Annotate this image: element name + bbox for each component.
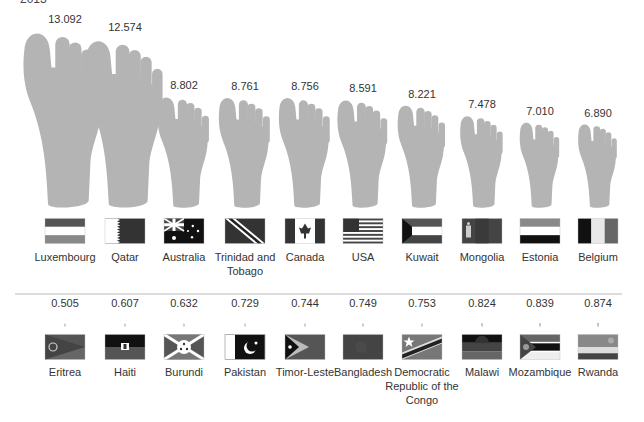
foot-icon: [539, 323, 541, 327]
estonia-flag: [520, 219, 560, 244]
foot-icon: [244, 324, 246, 327]
australia-flag: [164, 219, 204, 244]
value-label: 7.010: [526, 105, 554, 117]
foot-icon: [460, 116, 502, 207]
pakistan-flag: [225, 335, 265, 360]
foot-icon: [520, 123, 559, 208]
foot-icon: [398, 106, 445, 208]
value-label: 6.890: [584, 107, 612, 119]
foot-icon: [337, 100, 387, 207]
foot-icon: [304, 323, 306, 327]
value-label: 0.729: [231, 297, 259, 309]
foot-icon: [421, 323, 423, 327]
drc-flag: [402, 335, 442, 360]
eritrea-flag: [45, 335, 85, 360]
value-label: 8.591: [349, 82, 377, 94]
foot-icon: [481, 323, 483, 327]
value-label: 0.874: [584, 297, 612, 309]
rwanda-flag: [578, 335, 618, 360]
value-label: 8.802: [170, 79, 198, 91]
mozambique-flag: [520, 335, 560, 360]
value-label: 12.574: [108, 21, 142, 33]
foot-icon: [183, 324, 185, 327]
country-label: Belgium: [558, 250, 638, 264]
value-label: 0.824: [468, 297, 496, 309]
foot-icon: [597, 323, 599, 327]
foot-icon: [578, 125, 617, 208]
qatar-flag: [105, 219, 145, 244]
value-label: 0.749: [349, 297, 377, 309]
burundi-flag: [164, 335, 204, 360]
bangladesh-flag: [343, 335, 383, 360]
value-label: 7.478: [468, 98, 496, 110]
value-label: 0.839: [526, 297, 554, 309]
luxembourg-flag: [45, 219, 85, 244]
value-label: 0.632: [170, 297, 198, 309]
foot-icon: [279, 98, 330, 208]
foot-icon: [124, 324, 126, 327]
mongolia-flag: [462, 219, 502, 244]
malawi-flag: [462, 335, 502, 360]
value-label: 0.744: [291, 297, 319, 309]
footprint-chart: 13.09212.5748.8028.7618.7568.5918.2217.4…: [0, 0, 644, 422]
canada-flag: [285, 219, 325, 244]
value-label: 8.221: [408, 88, 436, 100]
foot-icon: [362, 323, 364, 327]
trinidad-flag: [225, 219, 265, 244]
foot-icon: [158, 97, 209, 207]
foot-icon: [219, 98, 270, 208]
value-label: 8.761: [231, 80, 259, 92]
value-label: 0.607: [111, 297, 139, 309]
value-label: 0.505: [51, 297, 79, 309]
group-divider: [15, 293, 622, 295]
value-label: 13.092: [48, 13, 82, 25]
kuwait-flag: [402, 219, 442, 244]
country-label: Rwanda: [558, 365, 638, 379]
timor-leste-flag: [285, 335, 325, 360]
value-label: 8.756: [291, 80, 319, 92]
belgium-flag: [578, 219, 618, 244]
value-label: 0.753: [408, 297, 436, 309]
usa-flag: [343, 219, 383, 244]
haiti-flag: [105, 335, 145, 360]
foot-icon: [64, 324, 66, 327]
